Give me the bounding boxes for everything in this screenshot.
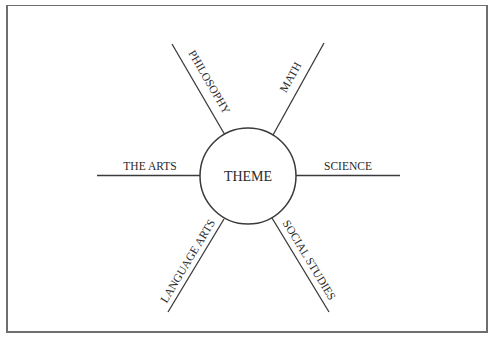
spoke-label-math: MATH	[277, 60, 303, 94]
center-label: THEME	[224, 169, 272, 184]
spoke-label-language-arts: LANGUAGE ARTS	[158, 217, 217, 304]
spoke-label-social-studies: SOCIAL STUDIES	[281, 218, 339, 302]
theme-web-diagram: THEME PHILOSOPHY MATH THE ARTS SCIENCE L…	[0, 0, 494, 342]
spoke-label-the-arts: THE ARTS	[123, 160, 176, 172]
spoke-label-philosophy: PHILOSOPHY	[186, 48, 233, 116]
spoke-line-language-arts	[168, 219, 224, 312]
spoke-label-science: SCIENCE	[324, 160, 372, 172]
